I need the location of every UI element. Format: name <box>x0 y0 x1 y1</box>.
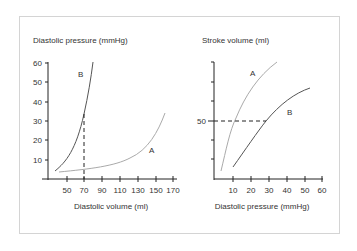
left-y-tick-labels: 60 50 40 30 20 10 <box>33 59 42 165</box>
right-label-a: A <box>250 69 256 78</box>
left-label-a: A <box>149 146 155 155</box>
right-y-ticks <box>208 62 214 159</box>
left-ytick-30: 30 <box>33 117 42 126</box>
left-xtick-90: 90 <box>98 186 107 195</box>
left-ytick-60: 60 <box>33 59 42 68</box>
left-y-axis-title: Diastolic pressure (mmHg) <box>33 36 128 45</box>
left-x-axis-title: Diastolic volume (ml) <box>74 202 149 211</box>
right-y-axis-title: Stroke volume (ml) <box>202 36 269 45</box>
left-curve-b <box>55 62 93 171</box>
left-xtick-70: 70 <box>80 186 89 195</box>
left-xtick-110: 110 <box>114 186 127 195</box>
right-ytick-50: 50 <box>197 117 206 126</box>
right-x-axis-title: Diastolic pressure (mmHg) <box>215 202 310 211</box>
left-xtick-170: 170 <box>166 186 180 195</box>
left-xtick-50: 50 <box>63 186 72 195</box>
left-x-tick-labels: 50 70 90 110 130 150 170 <box>63 186 181 195</box>
left-ytick-40: 40 <box>33 98 42 107</box>
left-ytick-10: 10 <box>33 156 42 165</box>
left-chart: Diastolic pressure (mmHg) 60 50 40 30 20… <box>33 36 180 211</box>
right-curve-a <box>221 62 277 171</box>
right-xtick-40: 40 <box>283 186 292 195</box>
right-label-b: B <box>287 108 292 117</box>
left-ytick-20: 20 <box>33 136 42 145</box>
right-x-tick-labels: 10 20 30 40 50 60 <box>229 186 327 195</box>
right-xtick-30: 30 <box>265 186 274 195</box>
left-xtick-130: 130 <box>131 186 145 195</box>
right-xtick-10: 10 <box>229 186 238 195</box>
right-xtick-20: 20 <box>247 186 256 195</box>
left-curve-a <box>59 113 165 172</box>
right-chart: Stroke volume (ml) 50 10 20 30 40 50 60 <box>197 36 327 211</box>
right-xtick-50: 50 <box>301 186 310 195</box>
right-xtick-60: 60 <box>318 186 327 195</box>
left-xtick-150: 150 <box>149 186 163 195</box>
figure-canvas: Diastolic pressure (mmHg) 60 50 40 30 20… <box>0 0 357 251</box>
left-ytick-50: 50 <box>33 78 42 87</box>
left-label-b: B <box>78 70 83 79</box>
